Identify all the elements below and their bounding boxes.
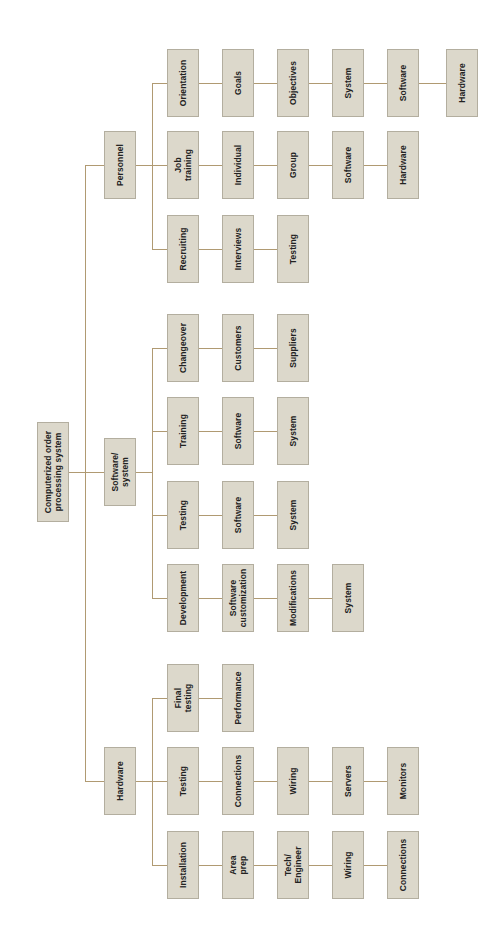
node-label: Customers bbox=[233, 325, 243, 370]
node-label: Monitors bbox=[398, 763, 408, 800]
node-hardware: Hardware bbox=[104, 747, 136, 815]
connector-root bbox=[69, 472, 85, 473]
connector-software-spine bbox=[152, 348, 153, 599]
node-job-training-hardware: Hardware bbox=[387, 131, 419, 199]
node-label: Installation bbox=[178, 842, 188, 888]
node-installation-connections: Connections bbox=[387, 831, 419, 899]
node-label: Final testing bbox=[173, 684, 193, 713]
node-label: Development bbox=[178, 571, 188, 625]
node-label: Hardware bbox=[457, 63, 467, 103]
node-personnel: Personnel bbox=[104, 131, 136, 199]
node-group: Group bbox=[277, 131, 309, 199]
node-sw-testing: Testing bbox=[167, 481, 199, 549]
node-training: Training bbox=[167, 397, 199, 465]
node-tech-engineer: Tech/ Engineer bbox=[277, 831, 309, 899]
node-label: Testing bbox=[288, 234, 298, 264]
node-label: Personnel bbox=[115, 144, 125, 186]
node-label: Suppliers bbox=[288, 328, 298, 368]
node-root: Computerized order processing system bbox=[37, 422, 69, 522]
node-label: Goals bbox=[233, 71, 243, 95]
node-label: Testing bbox=[178, 766, 188, 796]
node-orientation-system: System bbox=[332, 49, 364, 117]
node-label: Hardware bbox=[398, 145, 408, 185]
node-individual: Individual bbox=[222, 131, 254, 199]
node-label: Connections bbox=[233, 755, 243, 808]
node-hw-testing-wiring: Wiring bbox=[277, 747, 309, 815]
node-software-system: Software/ system bbox=[104, 438, 136, 506]
node-label: Job training bbox=[173, 149, 193, 181]
node-label: Software bbox=[398, 65, 408, 102]
connector-personnel-0 bbox=[152, 83, 167, 84]
node-label: Testing bbox=[178, 500, 188, 530]
node-customers: Customers bbox=[222, 314, 254, 382]
node-monitors: Monitors bbox=[387, 747, 419, 815]
node-label: Performance bbox=[233, 671, 243, 724]
node-label: Computerized order processing system bbox=[43, 431, 63, 514]
node-interviews: Interviews bbox=[222, 215, 254, 283]
node-label: Changeover bbox=[178, 323, 188, 373]
node-label: Hardware bbox=[115, 761, 125, 801]
node-recruiting-testing: Testing bbox=[277, 215, 309, 283]
chain-line-development bbox=[199, 598, 332, 599]
connector-hardware-spine bbox=[152, 698, 153, 865]
connector-trunk-software bbox=[85, 472, 105, 473]
node-sw-testing-system: System bbox=[277, 481, 309, 549]
connector-hardware-0 bbox=[152, 698, 167, 699]
connector-trunk-hardware bbox=[85, 781, 105, 782]
node-label: Servers bbox=[343, 765, 353, 797]
node-label: Training bbox=[178, 414, 188, 448]
node-final-testing: Final testing bbox=[167, 664, 199, 732]
node-modifications: Modifications bbox=[277, 564, 309, 632]
connector-software-1 bbox=[152, 431, 167, 432]
connector-software-2 bbox=[152, 515, 167, 516]
node-installation: Installation bbox=[167, 831, 199, 899]
node-development-system: System bbox=[332, 564, 364, 632]
connector-personnel-spine bbox=[152, 83, 153, 250]
node-performance: Performance bbox=[222, 664, 254, 732]
node-label: Objectives bbox=[288, 61, 298, 105]
node-orientation-software: Software bbox=[387, 49, 419, 117]
node-installation-wiring: Wiring bbox=[332, 831, 364, 899]
connector-software-3 bbox=[152, 598, 167, 599]
node-sw-testing-software: Software bbox=[222, 481, 254, 549]
node-hw-testing: Testing bbox=[167, 747, 199, 815]
node-orientation: Orientation bbox=[167, 49, 199, 117]
node-label: System bbox=[343, 583, 353, 614]
node-objectives: Objectives bbox=[277, 49, 309, 117]
node-servers: Servers bbox=[332, 747, 364, 815]
node-label: Wiring bbox=[343, 852, 353, 879]
node-recruiting: Recruiting bbox=[167, 215, 199, 283]
node-job-training: Job training bbox=[167, 131, 199, 199]
node-label: Wiring bbox=[288, 768, 298, 795]
node-label: Software customization bbox=[228, 569, 248, 627]
node-software-customization: Software customization bbox=[222, 564, 254, 632]
node-label: Area prep bbox=[228, 855, 248, 874]
node-label: Software bbox=[233, 497, 243, 534]
node-training-software: Software bbox=[222, 397, 254, 465]
node-label: Software bbox=[233, 413, 243, 450]
node-label: Connections bbox=[398, 839, 408, 892]
node-label: Group bbox=[288, 152, 298, 178]
connector-software-0 bbox=[152, 348, 167, 349]
node-training-system: System bbox=[277, 397, 309, 465]
node-label: System bbox=[343, 68, 353, 99]
node-development: Development bbox=[167, 564, 199, 632]
node-label: Orientation bbox=[178, 60, 188, 106]
node-label: Software bbox=[343, 147, 353, 184]
node-label: Tech/ Engineer bbox=[283, 846, 303, 883]
connector-trunk-personnel bbox=[85, 165, 105, 166]
connector-software-stem bbox=[136, 472, 152, 473]
node-hw-testing-connections: Connections bbox=[222, 747, 254, 815]
node-label: Modifications bbox=[288, 570, 298, 626]
node-label: Recruiting bbox=[178, 227, 188, 270]
node-label: System bbox=[288, 416, 298, 447]
node-orientation-hardware: Hardware bbox=[446, 49, 478, 117]
node-label: Interviews bbox=[233, 228, 243, 271]
node-changeover: Changeover bbox=[167, 314, 199, 382]
node-label: System bbox=[288, 500, 298, 531]
node-job-training-software: Software bbox=[332, 131, 364, 199]
node-label: Software/ system bbox=[110, 452, 130, 491]
connector-personnel-2 bbox=[152, 249, 167, 250]
node-goals: Goals bbox=[222, 49, 254, 117]
